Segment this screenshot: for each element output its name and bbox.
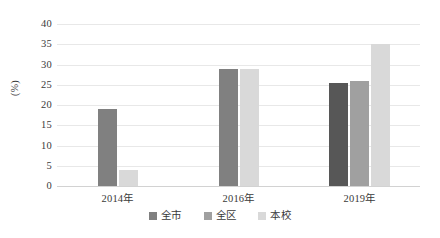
legend-swatch-quanshi-icon — [149, 212, 157, 220]
y-tick-label: 20 — [6, 100, 52, 111]
bar — [98, 109, 117, 186]
gridline — [57, 24, 420, 25]
bar — [219, 69, 238, 186]
legend-label: 全区 — [216, 211, 237, 222]
y-tick-label: 10 — [6, 140, 52, 151]
legend-swatch-quanqu-icon — [204, 212, 212, 220]
y-tick-label: 5 — [6, 161, 52, 172]
x-tick-label: 2019年 — [344, 190, 376, 205]
bar — [329, 83, 348, 186]
legend-label: 全市 — [161, 211, 182, 222]
gridline — [57, 186, 420, 187]
bar — [119, 170, 138, 186]
bar-chart: (%) 4035302520151050 2014年2016年2019年 全市全… — [0, 0, 440, 238]
y-axis-tick-labels: 4035302520151050 — [0, 24, 52, 186]
y-tick-label: 30 — [6, 59, 52, 70]
legend-label: 本校 — [270, 211, 291, 222]
bar — [350, 81, 369, 186]
y-tick-label: 0 — [6, 181, 52, 192]
y-tick-label: 35 — [6, 39, 52, 50]
y-tick-label: 15 — [6, 120, 52, 131]
legend-item[interactable]: 全区 — [204, 211, 237, 222]
chart-legend: 全市全区本校 — [0, 211, 440, 222]
bar — [371, 44, 390, 186]
x-axis-tick-labels: 2014年2016年2019年 — [57, 190, 420, 206]
gridline — [57, 44, 420, 45]
x-tick-label: 2016年 — [223, 190, 255, 205]
legend-item[interactable]: 本校 — [258, 211, 291, 222]
legend-swatch-benxiao-icon — [258, 212, 266, 220]
gridline — [57, 65, 420, 66]
y-tick-label: 40 — [6, 19, 52, 30]
y-tick-label: 25 — [6, 80, 52, 91]
bar — [240, 69, 259, 186]
plot-area — [57, 24, 420, 186]
legend-item[interactable]: 全市 — [149, 211, 182, 222]
x-tick-label: 2014年 — [102, 190, 134, 205]
